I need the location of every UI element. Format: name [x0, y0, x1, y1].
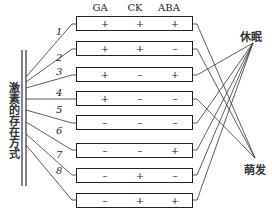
hormone-combination-row: – – – — [76, 115, 193, 130]
ga-value: – — [90, 116, 120, 129]
ga-value: + — [90, 17, 120, 30]
hormone-existence-label: 激素的存在方式 — [5, 82, 19, 159]
ga-value: – — [90, 169, 120, 182]
ga-value: – — [90, 194, 120, 207]
ck-value: – — [125, 144, 155, 157]
aba-value: – — [160, 116, 190, 129]
dormancy-label: 休眠 — [240, 28, 262, 44]
ck-value: – — [125, 68, 155, 81]
column-header-aba: ABA — [154, 2, 184, 13]
aba-value: + — [160, 68, 190, 81]
ck-value: – — [125, 116, 155, 129]
aba-value: + — [160, 17, 190, 30]
row-number: 7 — [56, 149, 62, 160]
germination-label: 萌发 — [244, 161, 266, 177]
aba-value: – — [160, 92, 190, 105]
row-number: 4 — [56, 87, 62, 98]
row-number: 5 — [56, 104, 62, 115]
hormone-combination-row: – + + — [76, 193, 193, 208]
ga-value: + — [90, 92, 120, 105]
ck-value: + — [125, 17, 155, 30]
hormone-combination-row: + + + — [76, 16, 193, 31]
aba-value: + — [160, 144, 190, 157]
hormone-combination-row: – – + — [76, 143, 193, 158]
row-number: 1 — [56, 26, 62, 37]
aba-value: + — [160, 194, 190, 207]
ga-value: + — [90, 42, 120, 55]
ck-value: + — [125, 42, 155, 55]
column-header-ga: GA — [85, 2, 115, 13]
hormone-combination-row: + – + — [76, 67, 193, 82]
ck-value: – — [125, 92, 155, 105]
ck-value: + — [125, 169, 155, 182]
row-number: 3 — [56, 66, 62, 77]
ck-value: + — [125, 194, 155, 207]
aba-value: – — [160, 169, 190, 182]
aba-value: – — [160, 42, 190, 55]
hormone-combination-row: + – – — [76, 91, 193, 106]
hormone-combination-row: – + – — [76, 168, 193, 183]
ga-value: + — [90, 68, 120, 81]
row-number: 6 — [56, 125, 62, 136]
hormone-combination-row: + + – — [76, 41, 193, 56]
ga-value: – — [90, 144, 120, 157]
row-number: 8 — [56, 165, 62, 176]
column-header-ck: CK — [120, 2, 150, 13]
row-number: 2 — [56, 52, 62, 63]
